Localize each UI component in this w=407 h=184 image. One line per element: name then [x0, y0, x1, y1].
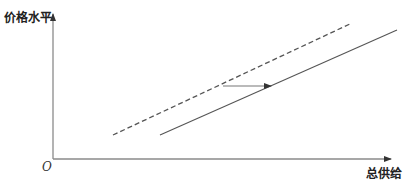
y-axis-label: 价格水平 — [4, 8, 52, 25]
origin-label: O — [42, 160, 52, 174]
diagram-canvas — [0, 0, 407, 184]
original-supply-curve — [113, 23, 352, 135]
x-axis-label: 总供给 — [366, 164, 402, 181]
shifted-supply-curve — [160, 30, 397, 135]
